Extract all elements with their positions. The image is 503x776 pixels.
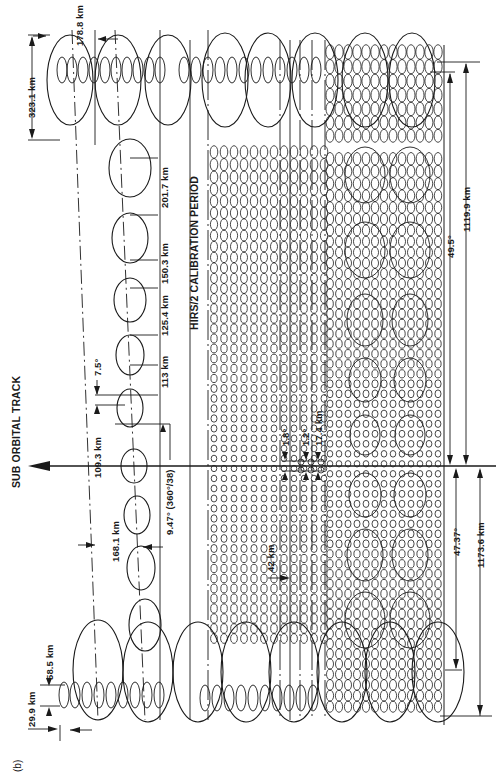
calibration-period-label: HIRS/2 CALIBRATION PERIOD xyxy=(188,176,200,330)
label-1-8-deg: 1.8° xyxy=(280,429,291,446)
label-109-3-km: 109.3 km xyxy=(92,437,103,478)
scan-pattern-diagram xyxy=(0,0,503,776)
panel-label: (b) xyxy=(12,760,23,772)
label-1119-9-km: 1119.9 km xyxy=(461,187,472,232)
dense-footprint-grid xyxy=(210,45,442,713)
label-113-km: 113 km xyxy=(159,356,170,388)
label-7-5-deg: 7.5° xyxy=(92,359,103,376)
label-168-1-km: 168.1 km xyxy=(110,521,121,562)
label-17-4-km: 17.4 km xyxy=(313,410,324,446)
label-323-1-km: 323.1 km xyxy=(26,77,37,118)
label-42-km: 42 km xyxy=(265,545,276,572)
title-sub-orbital-track: SUB ORBITAL TRACK xyxy=(10,376,22,488)
label-125-4-km: 125.4 km xyxy=(159,295,170,336)
label-1-2-deg: 1.2° xyxy=(300,429,311,446)
label-1173-6-km: 1173.6 km xyxy=(475,522,486,568)
label-47-37-deg: 47.37° xyxy=(451,528,462,556)
label-178-8-km: 178.8 km xyxy=(74,5,85,46)
label-49-5-deg: 49.5° xyxy=(445,235,456,258)
label-29-9-km: 29.9 km xyxy=(26,691,37,727)
label-150-3-km: 150.3 km xyxy=(159,243,170,284)
track-arrow-icon xyxy=(28,461,50,471)
label-58-5-km: 58.5 km xyxy=(44,644,55,680)
label-201-7-km: 201.7 km xyxy=(159,167,170,208)
label-9-47-deg: 9.47° (360°/38) xyxy=(164,469,175,535)
